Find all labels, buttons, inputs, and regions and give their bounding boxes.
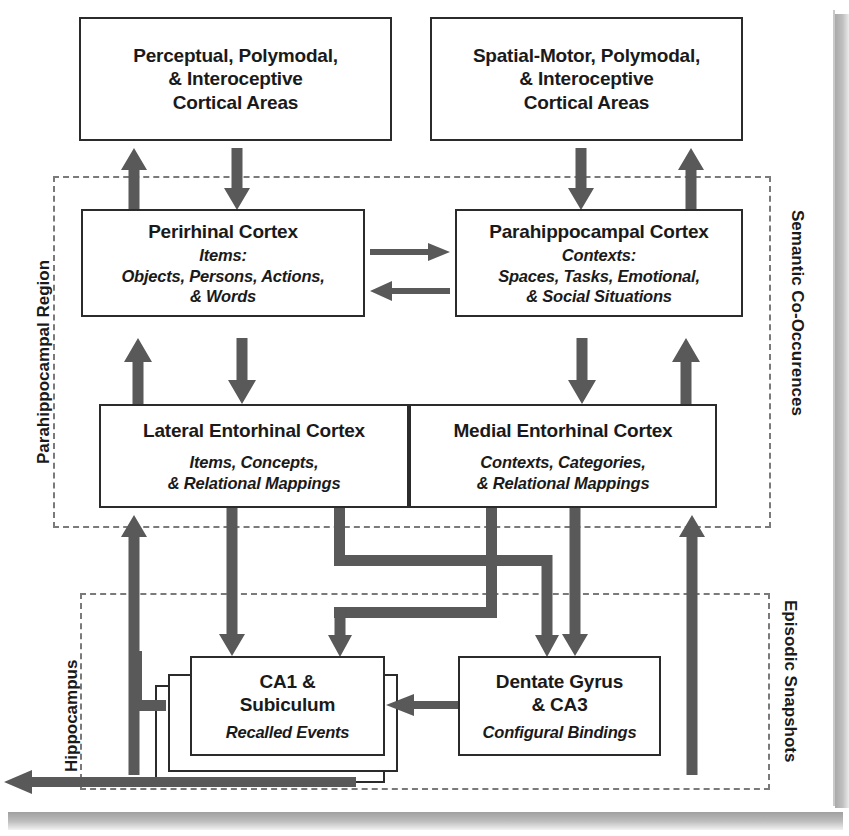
arrow-perirhinal-to-perceptual-up xyxy=(121,148,147,210)
arrow-hippocampus-to-medial-entorhinal-up xyxy=(679,515,705,775)
box-spatial-motor-line3: Cortical Areas xyxy=(524,91,649,114)
conn-ca1-loop-vertical xyxy=(131,651,142,706)
arrow-lateral-entorhinal-to-ca1-down xyxy=(219,508,245,656)
box-perceptual-line1: Perceptual, Polymodal, xyxy=(133,44,338,67)
region-label-hippocampus: Hippocampus xyxy=(62,660,82,772)
arrow-medial-entorhinal-to-parahippocampal-up xyxy=(672,338,700,404)
page-shadow-right xyxy=(835,14,849,808)
region-label-episodic-snapshots: Episodic Snapshots xyxy=(780,600,800,762)
box-spatial-motor-line2: & Interoceptive xyxy=(519,67,653,90)
box-dentate-title1: Dentate Gyrus xyxy=(496,670,623,693)
arrow-ca1-output-left xyxy=(4,770,48,794)
box-lateral-entorhinal-title: Lateral Entorhinal Cortex xyxy=(143,419,365,442)
box-perirhinal-sub1: Items: xyxy=(199,245,246,265)
box-medial-entorhinal-sub2: & Relational Mappings xyxy=(477,473,650,493)
conn-ca1-loop-horizontal xyxy=(131,700,166,711)
conn-medial-to-ca1-horizontal xyxy=(334,607,497,618)
box-parahippocampal-sub2: Spaces, Tasks, Emotional, xyxy=(498,266,700,286)
box-perceptual-cortical-areas[interactable]: Perceptual, Polymodal, & Interoceptive C… xyxy=(79,17,392,141)
diagram-canvas: Parahippocampal Region Hippocampus Seman… xyxy=(0,0,849,836)
arrow-parahippocampal-to-spatialmotor-up xyxy=(678,148,704,210)
box-perirhinal-title: Perirhinal Cortex xyxy=(148,220,298,243)
arrow-lateral-entorhinal-to-dentate-down xyxy=(535,555,559,657)
arrow-parahippocampal-to-perirhinal-left xyxy=(370,281,450,301)
box-dentate-gyrus-ca3[interactable]: Dentate Gyrus & CA3 Configural Bindings xyxy=(458,656,661,756)
arrow-dentate-to-ca1-left xyxy=(386,694,460,716)
box-parahippocampal-title: Parahippocampal Cortex xyxy=(489,220,708,243)
box-ca1-title2: Subiculum xyxy=(240,693,335,716)
box-lateral-entorhinal-sub1: Items, Concepts, xyxy=(190,452,319,472)
box-dentate-sub1: Configural Bindings xyxy=(483,722,637,742)
box-parahippocampal-cortex[interactable]: Parahippocampal Cortex Contexts: Spaces,… xyxy=(455,209,743,317)
box-perceptual-line2: & Interoceptive xyxy=(168,67,302,90)
box-ca1-subiculum[interactable]: CA1 & Subiculum Recalled Events xyxy=(190,656,385,756)
arrow-medial-entorhinal-to-dentate-down xyxy=(562,508,588,656)
box-perirhinal-cortex[interactable]: Perirhinal Cortex Items: Objects, Person… xyxy=(81,209,365,317)
box-medial-entorhinal-sub1: Contexts, Categories, xyxy=(480,452,645,472)
box-lateral-entorhinal-sub2: & Relational Mappings xyxy=(168,473,341,493)
arrow-ca1-to-lateral-entorhinal-up xyxy=(121,515,147,775)
box-perirhinal-sub2: Objects, Persons, Actions, xyxy=(121,266,324,286)
conn-lateral-to-dentate-horizontal xyxy=(334,555,546,566)
box-parahippocampal-sub1: Contexts: xyxy=(562,245,636,265)
box-medial-entorhinal-cortex[interactable]: Medial Entorhinal Cortex Contexts, Categ… xyxy=(409,404,717,508)
box-spatial-motor-cortical-areas[interactable]: Spatial-Motor, Polymodal, & Interoceptiv… xyxy=(430,17,743,141)
box-dentate-title2: & CA3 xyxy=(531,693,587,716)
region-label-parahippocampal-region: Parahippocampal Region xyxy=(34,260,54,464)
box-perirhinal-sub3: & Words xyxy=(190,286,256,306)
box-spatial-motor-line1: Spatial-Motor, Polymodal, xyxy=(473,44,700,67)
arrow-spatialmotor-to-parahippocampal-down xyxy=(568,148,594,210)
box-lateral-entorhinal-cortex[interactable]: Lateral Entorhinal Cortex Items, Concept… xyxy=(99,404,409,508)
box-parahippocampal-sub3: & Social Situations xyxy=(526,286,672,306)
arrow-perirhinal-to-lateral-entorhinal-down xyxy=(228,338,256,404)
region-label-semantic-co-occurences: Semantic Co-Occurences xyxy=(787,210,807,416)
arrow-perirhinal-to-parahippocampal-right xyxy=(370,243,450,261)
box-perceptual-line3: Cortical Areas xyxy=(173,91,298,114)
arrow-perceptual-to-perirhinal-down xyxy=(224,148,250,210)
page-shadow-bottom xyxy=(8,812,843,830)
page-frame-right xyxy=(833,10,835,806)
arrow-parahippocampal-to-medial-entorhinal-down xyxy=(568,338,596,404)
box-ca1-title1: CA1 & xyxy=(259,670,315,693)
arrow-lateral-entorhinal-to-perirhinal-up xyxy=(124,338,152,404)
box-medial-entorhinal-title: Medial Entorhinal Cortex xyxy=(453,419,672,442)
conn-ca1-output-horizontal xyxy=(40,777,356,787)
arrow-medial-entorhinal-to-ca1-down xyxy=(328,607,352,657)
conn-lateral-to-dentate-vertical-start xyxy=(334,508,345,560)
box-ca1-sub1: Recalled Events xyxy=(226,722,350,742)
